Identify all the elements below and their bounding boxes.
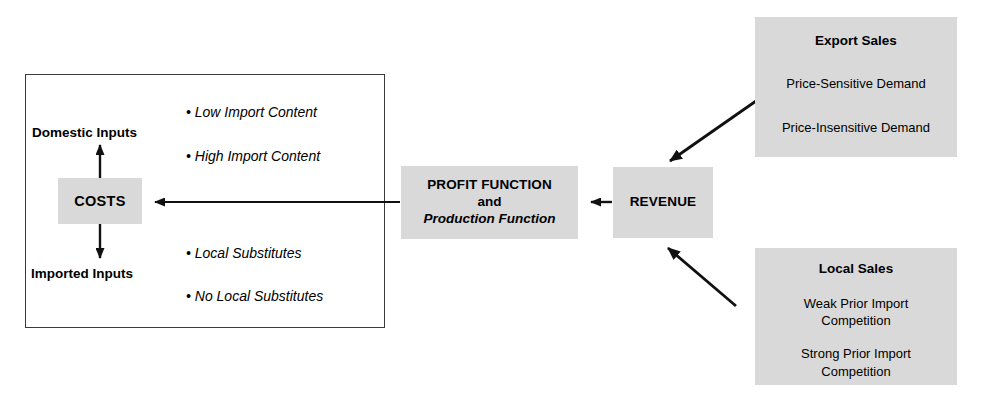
diagram-canvas: COSTS PROFIT FUNCTION and Production Fun… (0, 0, 982, 403)
label-domestic-inputs: Domestic Inputs (32, 125, 137, 140)
arrow-export-to-revenue (670, 101, 756, 161)
label-imported-inputs: Imported Inputs (31, 266, 133, 281)
local-sales-item-2-line2: Competition (821, 364, 890, 379)
bullet-no-local-substitutes: • No Local Substitutes (186, 288, 323, 304)
node-local-sales[interactable]: Local Sales Weak Prior Import Competitio… (755, 248, 957, 385)
local-sales-title: Local Sales (819, 261, 893, 278)
node-revenue-label: REVENUE (630, 194, 697, 211)
export-sales-item-1: Price-Sensitive Demand (786, 76, 925, 92)
node-costs-label: COSTS (74, 192, 125, 210)
local-sales-item-1-line1: Weak Prior Import (804, 296, 909, 311)
bullet-high-import-content: • High Import Content (186, 148, 320, 164)
local-sales-item-1-line2: Competition (821, 313, 890, 328)
arrow-local-to-revenue (668, 248, 736, 306)
local-sales-item-1: Weak Prior Import Competition (804, 295, 909, 330)
node-revenue[interactable]: REVENUE (613, 167, 713, 238)
node-profit-line3: Production Function (424, 211, 556, 228)
node-profit-line2: and (477, 194, 501, 211)
bullet-low-import-content: • Low Import Content (186, 104, 317, 120)
export-sales-item-2: Price-Insensitive Demand (782, 120, 930, 136)
node-profit-function[interactable]: PROFIT FUNCTION and Production Function (401, 166, 578, 239)
bullet-local-substitutes: • Local Substitutes (186, 245, 301, 261)
export-sales-title: Export Sales (815, 33, 897, 50)
node-costs[interactable]: COSTS (58, 178, 142, 224)
node-export-sales[interactable]: Export Sales Price-Sensitive Demand Pric… (755, 17, 957, 157)
local-sales-item-2: Strong Prior Import Competition (801, 345, 911, 380)
node-profit-line1: PROFIT FUNCTION (427, 177, 552, 194)
local-sales-item-2-line1: Strong Prior Import (801, 346, 911, 361)
